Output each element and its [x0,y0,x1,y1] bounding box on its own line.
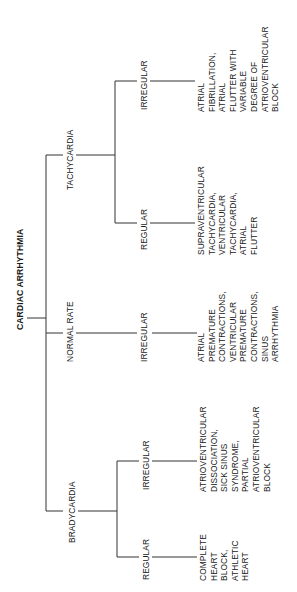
tachy-regular-label: REGULAR [139,209,150,250]
brady-irregular-label: IRREGULAR [141,440,152,490]
brady-irregular-examples: ATRIOVENTRICULAR DISSOCIATION, SICK SINU… [198,406,272,492]
normal-irregular-label: IRREGULAR [139,312,150,362]
tachy-irregular-examples: ATRIAL FIBRILLATION, ATRIAL FLUTTER WITH… [196,26,281,112]
brady-regular-label: REGULAR [141,539,152,580]
normal-rate-label: NORMAL RATE [65,301,76,362]
brady-regular-examples: COMPLETE HEART BLOCK, ATHLETIC HEART [198,534,251,581]
normal-irregular-examples: ATRIAL PREMATURE CONTRACTIONS, VENTRICUL… [196,291,281,362]
tachycardia-label: TACHYCARDIA [65,129,76,190]
bradycardia-label: BRADYCARDIA [67,481,78,543]
root-label: CARDIAC ARRHYTHMIA [15,229,26,330]
tachy-regular-examples: SUPRAVENTRICULAR TACHYCARDIA, VENTRICULA… [196,166,260,255]
tachy-irregular-label: IRREGULAR [139,60,150,110]
